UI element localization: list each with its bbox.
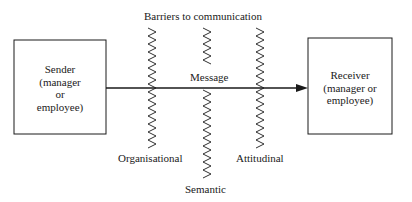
zigzag-barrier-semantic-upper: [203, 28, 211, 64]
barrier-label-organisational: Organisational: [118, 152, 183, 164]
receiver-label: Receiver (manager or employee): [308, 69, 392, 107]
message-label: Message: [190, 71, 229, 83]
barrier-label-semantic: Semantic: [185, 183, 226, 195]
message-arrowhead: [296, 84, 308, 92]
diagram-title: Barriers to communication: [144, 10, 262, 22]
zigzag-barrier-semantic-lower: [203, 90, 211, 178]
sender-label: Sender (manager or employee): [14, 63, 106, 113]
barrier-label-attitudinal: Attitudinal: [236, 152, 284, 164]
